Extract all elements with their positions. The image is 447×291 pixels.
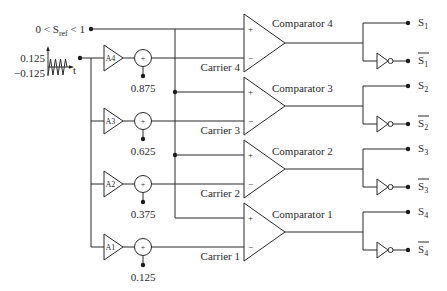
output-terminal-dot <box>406 185 410 189</box>
output-terminal-dot <box>406 122 410 126</box>
output-terminal-dot <box>406 248 410 252</box>
output-label: S1 <box>418 16 428 31</box>
inverted-output-label: S2 <box>418 117 428 132</box>
not-gate <box>377 116 388 132</box>
minus-input-sign: − <box>248 116 253 126</box>
stage-4: A4 + 0.875 Carrier 4 + − Comparator 4 S1… <box>104 14 429 94</box>
sum-sign: + <box>141 54 146 63</box>
carrier-label: Carrier 1 <box>201 250 240 262</box>
offset-terminal-dot <box>141 263 145 267</box>
carrier-label: Carrier 3 <box>201 124 241 136</box>
inverter-bubble <box>388 59 393 64</box>
inverter-bubble <box>388 248 393 253</box>
sum-sign: + <box>141 117 146 126</box>
carrier-lower-value: −0.125 <box>14 67 45 79</box>
time-axis-label: t <box>73 64 76 76</box>
output-label: S3 <box>418 142 428 157</box>
offset-value: 0.125 <box>131 271 156 283</box>
inverted-output-label: S4 <box>418 243 428 258</box>
not-gate <box>377 53 388 69</box>
comparator-label: Comparator 3 <box>272 82 333 94</box>
output-terminal-dot <box>406 21 410 25</box>
comparator-label: Comparator 4 <box>272 17 333 29</box>
output-terminal-dot <box>406 59 410 63</box>
inverter-bubble <box>388 185 393 190</box>
amplifier-label: A4 <box>106 54 116 63</box>
minus-input-sign: − <box>248 53 253 63</box>
comparator-label: Comparator 2 <box>272 145 333 157</box>
minus-input-sign: − <box>248 179 253 189</box>
output-label: S2 <box>418 79 428 94</box>
pwm-comparator-diagram: 0 < Sref < 1 0.125 −0.125 t A4 <box>0 0 447 291</box>
amplifier-label: A1 <box>106 243 116 252</box>
comparator-label: Comparator 1 <box>272 208 333 220</box>
amplifier-label: A3 <box>106 117 116 126</box>
carrier-upper-value: 0.125 <box>20 52 45 64</box>
offset-value: 0.625 <box>131 145 156 157</box>
offset-terminal-dot <box>141 200 145 204</box>
output-terminal-dot <box>406 147 410 151</box>
plus-input-sign: + <box>248 150 253 160</box>
offset-terminal-dot <box>141 137 145 141</box>
plus-input-sign: + <box>248 213 253 223</box>
inverted-output-label: S1 <box>418 54 428 69</box>
plus-input-sign: + <box>248 24 253 34</box>
output-terminal-dot <box>406 210 410 214</box>
sum-sign: + <box>141 180 146 189</box>
offset-value: 0.375 <box>131 208 156 220</box>
sum-sign: + <box>141 243 146 252</box>
minus-input-sign: − <box>248 242 253 252</box>
not-gate <box>377 179 388 195</box>
carrier-label: Carrier 4 <box>201 61 241 73</box>
reference-label: 0 < Sref < 1 <box>36 23 85 38</box>
inverted-output-label: S3 <box>418 180 428 195</box>
amplifier-label: A2 <box>106 180 116 189</box>
plus-input-sign: + <box>248 87 253 97</box>
carrier-label: Carrier 2 <box>201 187 240 199</box>
inverter-bubble <box>388 122 393 127</box>
carrier-source: 0.125 −0.125 t <box>14 46 104 247</box>
offset-terminal-dot <box>141 74 145 78</box>
offset-value: 0.875 <box>131 82 156 94</box>
output-label: S4 <box>418 205 428 220</box>
not-gate <box>377 242 388 258</box>
output-terminal-dot <box>406 84 410 88</box>
triangle-wave-icon <box>46 46 74 76</box>
